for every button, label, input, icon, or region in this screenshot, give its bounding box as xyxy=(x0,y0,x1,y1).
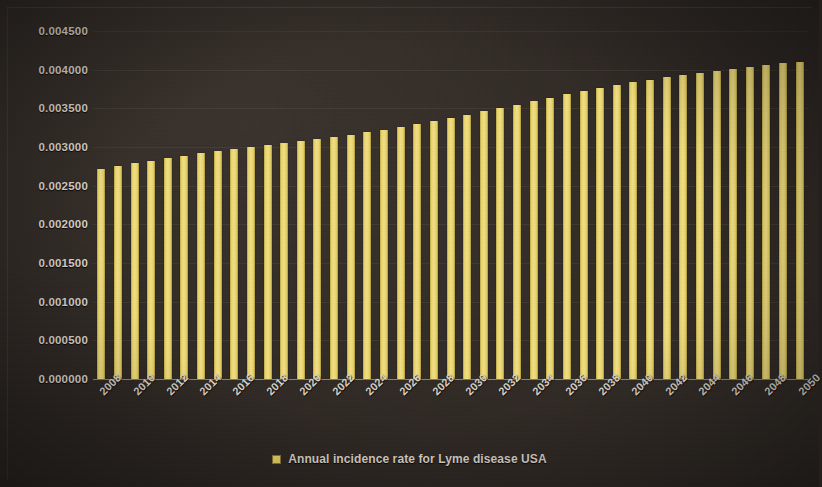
bar xyxy=(563,94,571,379)
bar xyxy=(663,77,671,379)
bar-series xyxy=(93,31,808,379)
bar xyxy=(513,105,521,379)
y-axis-tick-label: 0.000000 xyxy=(4,373,88,385)
legend-swatch-icon xyxy=(272,455,281,464)
bar xyxy=(347,135,355,379)
y-axis-tick-label: 0.001500 xyxy=(4,257,88,269)
y-axis-tick-label: 0.001000 xyxy=(4,296,88,308)
bar xyxy=(580,91,588,379)
bar xyxy=(629,82,637,379)
bar xyxy=(363,132,371,379)
y-axis-tick-label: 0.003000 xyxy=(4,141,88,153)
bar xyxy=(613,85,621,379)
bar xyxy=(430,121,438,379)
bar xyxy=(330,137,338,379)
y-axis-tick-label: 0.002500 xyxy=(4,180,88,192)
y-axis-tick-label: 0.002000 xyxy=(4,218,88,230)
bar xyxy=(796,62,804,379)
bar xyxy=(762,65,770,379)
bar xyxy=(230,149,238,379)
bar xyxy=(779,63,787,379)
bar xyxy=(131,163,139,379)
bar xyxy=(447,118,455,379)
bar xyxy=(397,127,405,379)
chart-legend: Annual incidence rate for Lyme disease U… xyxy=(0,452,819,466)
bar xyxy=(480,111,488,379)
bar xyxy=(180,156,188,379)
x-axis: 2008201020122014201620182020202220242026… xyxy=(93,383,808,438)
bar xyxy=(679,75,687,379)
bar xyxy=(496,108,504,379)
bar xyxy=(646,80,654,379)
y-axis-tick-label: 0.004000 xyxy=(4,64,88,76)
bar xyxy=(114,166,122,379)
y-axis-tick-label: 0.003500 xyxy=(4,102,88,114)
bar xyxy=(197,153,205,379)
bar xyxy=(280,143,288,379)
bar xyxy=(214,151,222,379)
bar xyxy=(713,71,721,379)
legend-label: Annual incidence rate for Lyme disease U… xyxy=(288,452,547,466)
bar xyxy=(264,145,272,379)
bar xyxy=(164,158,172,379)
bar xyxy=(596,88,604,379)
bar xyxy=(696,73,704,379)
y-axis: 0.0045000.0040000.0035000.0030000.002500… xyxy=(0,31,88,379)
bar xyxy=(729,69,737,379)
y-axis-tick-label: 0.000500 xyxy=(4,334,88,346)
bar xyxy=(313,139,321,379)
y-axis-tick-label: 0.004500 xyxy=(4,25,88,37)
bar xyxy=(530,101,538,379)
plot-area xyxy=(93,31,808,379)
bar xyxy=(546,98,554,379)
bar xyxy=(97,169,105,379)
bar xyxy=(147,161,155,379)
bar xyxy=(297,141,305,379)
bar xyxy=(413,124,421,379)
bar xyxy=(247,147,255,379)
bar xyxy=(380,130,388,379)
bar xyxy=(463,115,471,379)
bar xyxy=(746,67,754,379)
